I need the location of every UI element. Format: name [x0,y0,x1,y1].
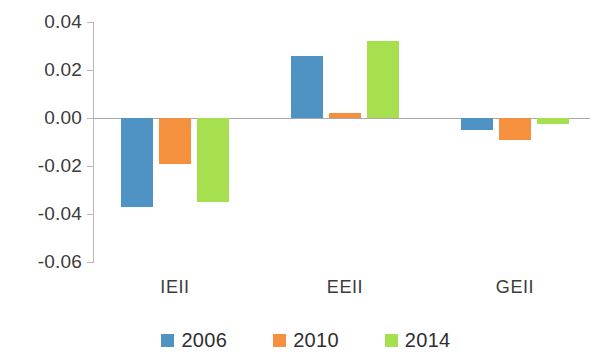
legend-item-2006[interactable]: 2006 [161,330,227,350]
legend-item-2010[interactable]: 2010 [273,330,339,350]
legend-swatch-icon [385,334,398,347]
y-axis-line [93,22,94,262]
y-axis-tick-label: 0.02 [6,60,82,79]
chart-legend: 200620102014 [0,330,612,350]
bar-geii-2010 [499,118,531,140]
y-axis-tick [87,214,94,215]
bar-geii-2006 [461,118,493,130]
legend-item-2014[interactable]: 2014 [385,330,451,350]
y-axis-tick [87,22,94,23]
legend-label: 2014 [405,330,451,350]
x-axis-label-eeii: EEII [285,278,405,296]
bar-eeii-2010 [329,113,361,118]
y-axis-tick-label: -0.06 [6,252,82,271]
y-axis-tick [87,166,94,167]
y-axis-tick [87,262,94,263]
y-axis-tick [87,70,94,71]
bar-geii-2014 [537,118,569,124]
y-axis-tick-label: -0.04 [6,204,82,223]
legend-label: 2010 [293,330,339,350]
x-axis-label-ieii: IEII [115,278,235,296]
y-axis-tick-label: -0.02 [6,156,82,175]
bar-eeii-2014 [367,41,399,118]
y-axis-tick-label: 0.04 [6,12,82,31]
y-axis-tick-label: 0.00 [6,108,82,127]
legend-swatch-icon [161,334,174,347]
bar-ieii-2010 [159,118,191,164]
bar-ieii-2014 [197,118,229,202]
x-axis-label-geii: GEII [455,278,575,296]
bar-ieii-2006 [121,118,153,207]
legend-swatch-icon [273,334,286,347]
bar-eeii-2006 [291,56,323,118]
legend-label: 2006 [181,330,227,350]
bar-chart: 0.040.020.00-0.02-0.04-0.06 IEIIEEIIGEII… [0,0,612,359]
